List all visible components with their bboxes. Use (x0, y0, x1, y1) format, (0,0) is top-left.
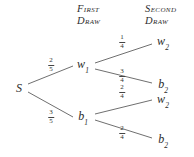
probability-label-w1-to-w2: 1 4 (119, 34, 125, 50)
probability-label-b1-to-b2-numerator: 2 (119, 125, 125, 133)
header-second-draw-line2: Draw (145, 15, 176, 27)
probability-label-b1-to-w2-denominator: 4 (119, 92, 125, 101)
node-w1: w1 (77, 57, 89, 73)
node-w1-subscript: 1 (85, 66, 89, 75)
header-first-draw-line1: First (77, 3, 100, 15)
probability-label-root-to-w1: 2 5 (48, 57, 54, 73)
header-second-draw-line1: Second (145, 3, 176, 15)
node-b1: b1 (78, 109, 88, 125)
node-leaf-b2-bottom: b2 (158, 132, 168, 148)
node-b1-subscript: 1 (84, 118, 88, 127)
probability-label-w1-to-b2: 3 4 (119, 68, 125, 84)
node-leaf-b2-bottom-subscript: 2 (164, 141, 168, 150)
probability-label-root-to-w1-numerator: 2 (48, 57, 54, 65)
branch-line-b1-to-w2 (95, 100, 152, 114)
probability-label-b1-to-w2: 2 4 (119, 84, 125, 100)
header-first-draw: First Draw (77, 3, 100, 27)
node-root-s: S (16, 81, 22, 96)
probability-label-w1-to-w2-numerator: 1 (119, 34, 125, 42)
node-root-s-base: S (16, 81, 22, 95)
probability-label-root-to-b1: 3 5 (48, 109, 54, 125)
node-leaf-b2-upper: b2 (158, 77, 168, 93)
probability-tree-diagram: First Draw Second Draw S w1 b1 w2 b2 w2 … (0, 0, 194, 157)
node-leaf-w2-lower-subscript: 2 (165, 101, 169, 110)
probability-label-b1-to-b2-denominator: 4 (119, 133, 125, 142)
probability-label-w1-to-w2-denominator: 4 (119, 42, 125, 51)
node-leaf-w2-top: w2 (157, 34, 169, 50)
node-leaf-w2-lower-base: w (157, 92, 165, 106)
probability-label-b1-to-w2-numerator: 2 (119, 84, 125, 92)
probability-label-w1-to-b2-numerator: 3 (119, 68, 125, 76)
node-leaf-w2-top-base: w (157, 34, 165, 48)
node-leaf-w2-lower: w2 (157, 92, 169, 108)
node-w1-base: w (77, 57, 85, 71)
probability-label-b1-to-b2: 2 4 (119, 125, 125, 141)
node-leaf-w2-top-subscript: 2 (165, 43, 169, 52)
header-second-draw: Second Draw (145, 3, 176, 27)
header-first-draw-line2: Draw (77, 15, 100, 27)
probability-label-root-to-w1-denominator: 5 (48, 65, 54, 74)
probability-label-root-to-b1-denominator: 5 (48, 117, 54, 126)
probability-label-root-to-b1-numerator: 3 (48, 109, 54, 117)
